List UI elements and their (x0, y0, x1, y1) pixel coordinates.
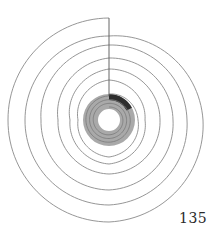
spiral-line (8, 18, 203, 222)
page-number: 135 (179, 210, 207, 226)
spiral-diagram (0, 0, 215, 245)
